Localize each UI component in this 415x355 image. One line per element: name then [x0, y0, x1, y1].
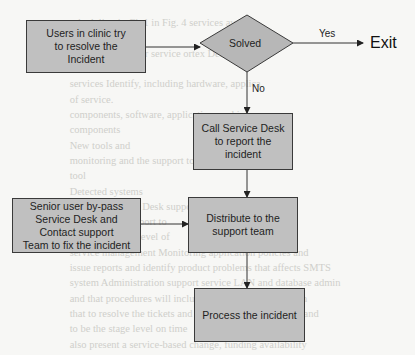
node-process-line: Process the incident	[202, 309, 297, 322]
node-exit: Exit	[370, 34, 397, 52]
node-distribute-line: Distribute to the	[206, 212, 280, 225]
edge-no-label: No	[252, 83, 265, 94]
node-users-try: Users in clinic try to resolve the Incid…	[26, 20, 146, 73]
node-senior-line: Team to fix the incident	[23, 239, 130, 252]
node-call-line: Call Service Desk	[202, 122, 285, 135]
node-senior-line: Senior user by-pass	[23, 200, 130, 213]
edge-yes-label: Yes	[319, 28, 335, 39]
node-call-service-desk: Call Service Desk to report the incident	[193, 113, 293, 170]
node-users-try-line: Users in clinic try	[46, 27, 125, 40]
node-distribute: Distribute to the support team	[188, 197, 298, 253]
node-senior-user: Senior user by-pass Service Desk and Con…	[12, 198, 141, 253]
node-senior-line: Service Desk and	[23, 213, 130, 226]
node-call-line: to report the	[202, 135, 285, 148]
node-solved-label: Solved	[229, 37, 261, 49]
node-call-line: incident	[202, 148, 285, 161]
node-process: Process the incident	[194, 288, 305, 342]
node-distribute-line: support team	[206, 225, 280, 238]
node-senior-line: Contact support	[23, 226, 130, 239]
node-users-try-line: to resolve the	[46, 40, 125, 53]
node-users-try-line: Incident	[46, 53, 125, 66]
